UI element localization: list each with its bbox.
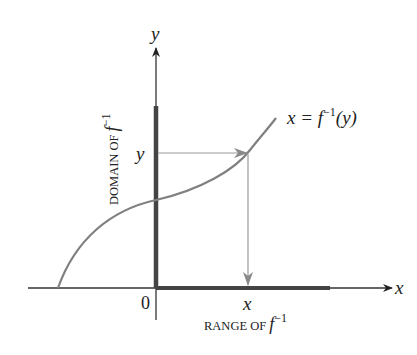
domain-label-text: DOMAIN OF	[107, 131, 121, 205]
curve-label-main: x = f	[286, 107, 326, 128]
x-point-label: x	[242, 293, 252, 314]
inverse-function-curve	[58, 118, 276, 288]
curve-label: x = f−1(y)	[286, 105, 357, 129]
domain-label-group: DOMAIN OF f−1	[99, 114, 122, 205]
y-axis-label: y	[149, 23, 160, 44]
range-label-sup: −1	[274, 311, 287, 325]
origin-label: 0	[141, 293, 150, 313]
curve-label-sup: −1	[323, 105, 336, 119]
curve-label-arg: (y)	[336, 107, 357, 129]
x-axis-label: x	[394, 277, 404, 298]
y-point-label: y	[134, 143, 145, 164]
inverse-function-diagram: y x 0 y x x = f−1(y) DOMAIN OF f−1 RANGE…	[0, 0, 417, 355]
svg-text:DOMAIN OF f−1: DOMAIN OF f−1	[99, 114, 122, 205]
range-label: RANGE OF f−1	[204, 311, 287, 334]
domain-label-sup: −1	[99, 114, 113, 127]
range-label-text: RANGE OF	[204, 319, 269, 333]
diagram-canvas: y x 0 y x x = f−1(y) DOMAIN OF f−1 RANGE…	[0, 0, 417, 355]
